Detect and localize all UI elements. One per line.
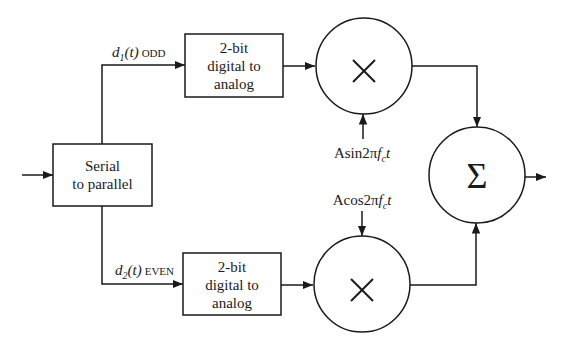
multiplier-bottom: [314, 236, 410, 332]
dac-top-line2: digital to: [207, 58, 261, 74]
sigma-icon: Σ: [467, 156, 488, 196]
mult-top-to-sum-path: [412, 66, 477, 127]
dac-top-block: 2-bit digital to analog: [185, 34, 283, 97]
serial-to-parallel-block: Serial to parallel: [53, 144, 152, 206]
serial-label: Serial: [85, 158, 120, 174]
odd-path: [102, 65, 185, 144]
odd-signal-label: d1(t)ODD: [112, 44, 166, 63]
sin-carrier-label: Asin2πfct: [334, 145, 391, 164]
cos-carrier-label: Acos2πfct: [333, 192, 393, 211]
even-signal-label: d2(t)EVEN: [115, 262, 174, 281]
mult-bottom-to-sum-path: [410, 223, 476, 285]
dac-bottom-line3: analog: [212, 295, 252, 311]
summer-block: Σ: [429, 127, 525, 223]
dac-bottom-block: 2-bit digital to analog: [183, 253, 281, 315]
dac-bottom-line2: digital to: [205, 277, 259, 293]
modulator-diagram: Serial to parallel d1(t)ODD d2(t)EVEN 2-…: [0, 0, 565, 351]
multiplier-top: [316, 18, 412, 114]
dac-bottom-line1: 2-bit: [218, 259, 247, 275]
dac-top-line1: 2-bit: [220, 40, 249, 56]
to-parallel-label: to parallel: [72, 176, 132, 192]
dac-top-line3: analog: [214, 76, 254, 92]
